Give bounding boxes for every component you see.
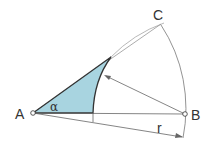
arrowhead-b bbox=[104, 75, 111, 80]
arc-bc bbox=[161, 25, 186, 138]
label-c: C bbox=[153, 7, 163, 23]
label-r: r bbox=[157, 120, 162, 136]
label-a: A bbox=[15, 106, 25, 122]
label-alpha: α bbox=[50, 100, 58, 114]
arrow-b bbox=[106, 76, 185, 114]
point-b bbox=[183, 112, 188, 117]
point-a bbox=[31, 111, 36, 116]
diagram-svg: A B C r α bbox=[0, 0, 209, 150]
shaded-region bbox=[33, 57, 111, 113]
label-b: B bbox=[191, 107, 200, 123]
geometry-diagram: A B C r α bbox=[0, 0, 209, 150]
